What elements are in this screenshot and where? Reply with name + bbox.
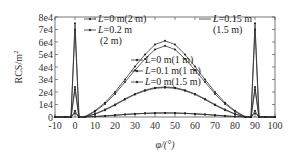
y-tick-label: 6e4	[39, 37, 53, 48]
series-marker	[234, 116, 236, 118]
series-marker	[104, 103, 106, 105]
series-marker	[224, 103, 226, 105]
y-tick-label: 2e4	[39, 87, 53, 98]
series-marker	[164, 45, 166, 47]
legend-left: L=0 m(2 m) L=0.2 m (2 m)	[84, 13, 146, 47]
x-tick-label: 20	[110, 120, 120, 131]
series-marker	[204, 99, 206, 101]
series-marker	[74, 22, 76, 24]
series-marker	[254, 110, 256, 112]
legend-item-l02-2m: L=0.2 m	[97, 24, 132, 35]
series-marker	[104, 115, 106, 117]
series-marker	[104, 109, 106, 111]
x-tick-label: 30	[130, 120, 140, 131]
series-marker	[144, 90, 146, 92]
y-tick-label: 3e4	[39, 74, 53, 85]
y-tick-label: 8e4	[39, 12, 53, 23]
x-tick-label: 40	[150, 120, 160, 131]
series-marker	[174, 112, 176, 114]
series-marker	[74, 86, 76, 88]
series-marker	[204, 81, 206, 83]
x-axis-label: φ/(°)	[156, 139, 176, 151]
x-tick-label: 10	[90, 120, 100, 131]
series-marker	[250, 116, 252, 118]
x-tick-label: 70	[210, 120, 220, 131]
series-marker	[204, 79, 206, 81]
series-marker	[164, 112, 166, 114]
legend-item-l0-15m: L=0 m(1.5 m)	[144, 76, 201, 88]
series-marker	[124, 81, 126, 83]
series-marker	[154, 87, 156, 89]
series-marker	[70, 116, 72, 118]
series-marker	[254, 89, 256, 91]
x-tick-label: 90	[250, 120, 260, 131]
series-marker	[234, 113, 236, 115]
series-marker	[204, 114, 206, 116]
series-marker	[174, 49, 176, 51]
x-tick-label: 0	[73, 120, 78, 131]
legend-item-l02-2m-sub: (2 m)	[100, 35, 122, 47]
series-marker	[154, 44, 156, 46]
series-marker	[114, 104, 116, 106]
legend-right: L=0.15 m (1.5 m)	[199, 13, 252, 36]
series-marker	[154, 49, 156, 51]
series-marker	[254, 22, 256, 24]
series-marker	[74, 29, 76, 31]
series-marker	[184, 112, 186, 114]
series-marker	[194, 94, 196, 96]
series-marker	[74, 89, 76, 91]
series-marker	[134, 113, 136, 115]
series-marker	[214, 114, 216, 116]
series-marker	[64, 116, 66, 118]
series-marker	[258, 116, 260, 118]
x-tick-label: 60	[190, 120, 200, 131]
series-marker	[74, 112, 76, 114]
series-marker	[214, 93, 216, 95]
series-marker	[244, 116, 246, 118]
series-marker	[114, 114, 116, 116]
series-marker	[264, 116, 266, 118]
series-marker	[274, 116, 276, 118]
series-marker	[144, 112, 146, 114]
series-marker	[194, 113, 196, 115]
x-tick-label: -10	[48, 120, 61, 131]
y-axis-label: RCS/m2	[12, 50, 24, 83]
x-tick-label: 100	[268, 120, 283, 131]
series-marker	[224, 109, 226, 111]
series-marker	[164, 40, 166, 42]
legend-item-l015-15m: L=0.15 m	[212, 13, 252, 24]
series-marker	[154, 112, 156, 114]
y-tick-label: 1e4	[39, 99, 53, 110]
series-marker	[124, 99, 126, 101]
y-tick-label: 5e4	[39, 49, 53, 60]
series-marker	[254, 112, 256, 114]
series-marker	[124, 114, 126, 116]
x-tick-label: 80	[230, 120, 240, 131]
series-marker	[174, 87, 176, 89]
series-marker	[54, 116, 56, 118]
legend-item-l015-15m-sub: (1.5 m)	[213, 24, 242, 36]
series-marker	[134, 94, 136, 96]
series-marker	[234, 111, 236, 113]
series-marker	[254, 86, 256, 88]
series-marker	[84, 116, 86, 118]
rcs-chart: 01e42e43e44e45e46e47e48e4 -1001020304050…	[0, 0, 299, 163]
series-marker	[78, 116, 80, 118]
series-marker	[224, 115, 226, 117]
series-marker	[124, 79, 126, 81]
y-tick-label: 7e4	[39, 24, 53, 35]
series-marker	[94, 111, 96, 113]
series-marker	[214, 104, 216, 106]
series-marker	[94, 113, 96, 115]
series-marker	[114, 93, 116, 95]
series-marker	[134, 65, 136, 67]
series-marker	[74, 110, 76, 112]
series-marker	[174, 44, 176, 46]
series-marker	[184, 90, 186, 92]
y-tick-label: 4e4	[39, 62, 53, 73]
series-marker	[94, 116, 96, 118]
x-tick-label: 50	[170, 120, 180, 131]
series-marker	[254, 29, 256, 31]
